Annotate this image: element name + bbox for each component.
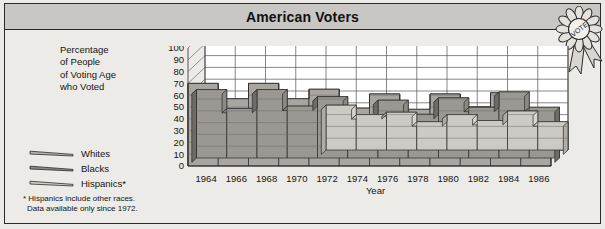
x-axis-tick-label: 1972 (317, 173, 338, 184)
ribbon-wedge-icon (29, 179, 74, 188)
ribbon-front-face (227, 108, 257, 158)
y-axis-tick-label: 20 (173, 137, 184, 148)
y-axis-depth-tick (188, 67, 205, 83)
chart-plot-area: 0102030405060708090100196419661968197019… (160, 46, 580, 196)
x-axis-tick-label: 1964 (196, 173, 217, 184)
ribbon-left-cap (192, 90, 197, 163)
y-axis-tick-label: 80 (173, 66, 184, 77)
chart-frame: American Voters VOTE (4, 3, 601, 224)
ribbon-step-face (222, 90, 227, 113)
y-axis-title-line-2: of People (60, 56, 155, 68)
ribbon-wedge-icon (29, 164, 74, 173)
legend-item-whites: Whites (29, 147, 159, 160)
chart-legend: Whites Blacks Hispanics* (29, 147, 159, 192)
ribbon-wedge-icon (29, 149, 74, 158)
x-axis-tick-label: 1982 (468, 173, 489, 184)
chart-footnote: * Hispanics include other races. Data av… (23, 194, 198, 214)
y-axis-tick-label: 0 (179, 160, 184, 171)
ribbon-front-face (287, 106, 317, 158)
y-axis-title-line-3: of Voting Age (60, 69, 155, 81)
x-axis-tick-label: 1980 (438, 173, 459, 184)
ribbon-front-face (356, 115, 386, 150)
page-title: American Voters (246, 9, 359, 25)
y-axis-tick-label: 60 (173, 90, 184, 101)
y-axis-tick-label: 50 (173, 101, 184, 112)
legend-label-whites: Whites (81, 148, 110, 159)
x-axis-title: Year (366, 185, 385, 196)
chart-page: American Voters VOTE (0, 0, 605, 229)
y-axis-depth-tick (188, 56, 205, 72)
y-axis-tick-label: 100 (168, 46, 184, 53)
legend-item-hispanics: Hispanics* (29, 177, 159, 190)
y-axis-tick-label: 90 (173, 54, 184, 65)
legend-label-blacks: Blacks (81, 163, 109, 174)
legend-label-hispanics: Hispanics* (81, 178, 126, 189)
y-axis-tick-label: 40 (173, 113, 184, 124)
ribbon-step-face (252, 90, 257, 113)
x-axis-tick-label: 1966 (226, 173, 247, 184)
y-axis-tick-label: 30 (173, 125, 184, 136)
x-axis-tick-label: 1968 (256, 173, 277, 184)
x-axis-tick-label: 1970 (286, 173, 307, 184)
x-axis-tick-label: 1978 (407, 173, 428, 184)
footnote-line-2: Data available only since 1972. (23, 204, 198, 214)
x-axis-tick-label: 1974 (347, 173, 368, 184)
legend-item-blacks: Blacks (29, 162, 159, 175)
y-axis-title-line-1: Percentage (60, 44, 155, 56)
voter-turnout-3d-area-chart: 0102030405060708090100196419661968197019… (160, 46, 580, 196)
y-axis-tick-label: 70 (173, 78, 184, 89)
x-axis-tick-label: 1984 (498, 173, 519, 184)
ribbon-left-cap (321, 105, 326, 154)
y-axis-tick-label: 10 (173, 149, 184, 160)
ribbon-tail-right (583, 42, 602, 68)
y-axis-title-line-4: who Voted (60, 81, 155, 93)
x-axis-tick-label: 1986 (528, 173, 549, 184)
x-axis-tick-label: 1976 (377, 173, 398, 184)
y-axis-title: Percentage of People of Voting Age who V… (60, 44, 155, 94)
footnote-line-1: * Hispanics include other races. (23, 194, 135, 203)
chart-title-bar: American Voters (5, 4, 600, 30)
